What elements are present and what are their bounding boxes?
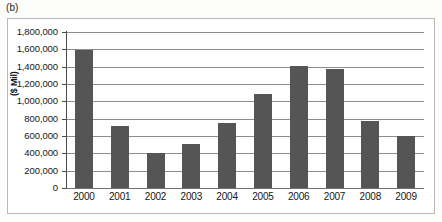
bar-2004: [218, 123, 236, 188]
x-tick-label-2005: 2005: [245, 191, 281, 203]
x-tick-label-2001: 2001: [102, 191, 138, 203]
bar-2003: [182, 144, 200, 188]
bar-2006: [290, 66, 308, 188]
gridline: [66, 32, 424, 33]
y-tick-mark: [62, 49, 66, 50]
y-tick-mark: [62, 153, 66, 154]
y-tick-label: 200,000: [0, 166, 58, 176]
gridline: [66, 119, 424, 120]
y-tick-label: 1,800,000: [0, 27, 58, 37]
y-tick-label: 1,600,000: [0, 44, 58, 54]
bar-2007: [326, 69, 344, 188]
y-axis-tick-labels: 1,800,0001,600,0001,400,0001,200,0001,00…: [0, 0, 58, 222]
x-tick-label-2003: 2003: [173, 191, 209, 203]
x-tick-label-2004: 2004: [209, 191, 245, 203]
figure-panel: (b) ($ Mil) 1,800,0001,600,0001,400,0001…: [0, 0, 442, 222]
y-tick-mark: [62, 171, 66, 172]
bar-2000: [75, 50, 93, 188]
x-tick-label-2000: 2000: [66, 191, 102, 203]
x-tick-label-2009: 2009: [388, 191, 424, 203]
x-tick-label-2008: 2008: [352, 191, 388, 203]
gridline: [66, 67, 424, 68]
y-tick-label: 1,400,000: [0, 62, 58, 72]
y-tick-mark: [62, 136, 66, 137]
y-tick-label: 600,000: [0, 131, 58, 141]
bar-2008: [361, 121, 379, 188]
x-tick-label-2007: 2007: [317, 191, 353, 203]
y-tick-mark: [62, 188, 66, 189]
gridline: [66, 49, 424, 50]
y-tick-label: 1,200,000: [0, 79, 58, 89]
y-tick-label: 0: [0, 183, 58, 193]
bar-2001: [111, 126, 129, 188]
bar-2009: [397, 136, 415, 188]
y-tick-mark: [62, 84, 66, 85]
y-tick-mark: [62, 119, 66, 120]
y-axis-line: [66, 31, 67, 189]
x-axis-line: [66, 188, 424, 189]
gridline: [66, 101, 424, 102]
x-tick-label-2006: 2006: [281, 191, 317, 203]
y-tick-mark: [62, 32, 66, 33]
bar-2005: [254, 94, 272, 188]
y-tick-label: 1,000,000: [0, 96, 58, 106]
y-tick-mark: [62, 101, 66, 102]
bar-2002: [147, 153, 165, 188]
plot-area: [66, 32, 424, 188]
gridline: [66, 84, 424, 85]
y-tick-label: 400,000: [0, 148, 58, 158]
y-tick-mark: [62, 67, 66, 68]
x-tick-label-2002: 2002: [138, 191, 174, 203]
y-tick-label: 800,000: [0, 114, 58, 124]
